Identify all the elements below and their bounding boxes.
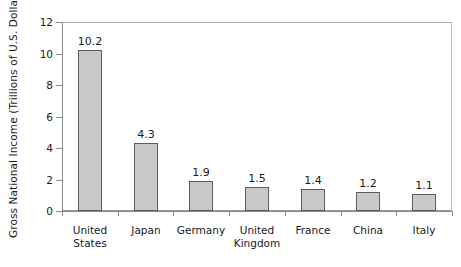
y-axis-tick-label: 4 — [0, 142, 62, 154]
y-axis-tick-mark — [56, 117, 62, 118]
category-label-line: States — [55, 237, 125, 250]
bar-value-label: 1.2 — [338, 177, 398, 190]
bar — [301, 189, 325, 211]
y-axis-tick-mark — [56, 85, 62, 86]
bar — [356, 192, 380, 211]
y-axis-tick-label: 0 — [0, 205, 62, 217]
x-axis-tick-mark — [118, 211, 119, 216]
bar-value-label: 4.3 — [116, 128, 176, 141]
x-axis-line — [62, 211, 453, 212]
category-label: Italy — [389, 224, 459, 237]
y-axis-line — [62, 22, 63, 212]
x-axis-tick-mark — [452, 211, 453, 216]
category-label-line: Kingdom — [222, 237, 292, 250]
y-axis-tick-mark — [56, 148, 62, 149]
y-axis-tick-label: 10 — [0, 48, 62, 60]
bar-value-label: 1.5 — [227, 172, 287, 185]
bar-chart: Gross National Income (Trillions of U.S.… — [0, 0, 461, 267]
bar — [78, 50, 102, 211]
bar-value-label: 1.4 — [283, 174, 343, 187]
bar-value-label: 1.9 — [171, 166, 231, 179]
x-axis-tick-mark — [285, 211, 286, 216]
y-axis-tick-label: 12 — [0, 16, 62, 28]
y-axis-tick-mark — [56, 180, 62, 181]
bar — [245, 187, 269, 211]
bar — [134, 143, 158, 211]
y-axis-tick-label: 8 — [0, 79, 62, 91]
x-axis-tick-mark — [229, 211, 230, 216]
x-axis-tick-mark — [62, 211, 63, 216]
bar — [189, 181, 213, 211]
x-axis-tick-mark — [173, 211, 174, 216]
bar-value-label: 10.2 — [60, 35, 120, 48]
bar-value-label: 1.1 — [394, 179, 454, 192]
y-axis-tick-label: 6 — [0, 111, 62, 123]
x-axis-tick-mark — [396, 211, 397, 216]
x-axis-tick-mark — [341, 211, 342, 216]
bar — [412, 194, 436, 211]
category-label-line: Italy — [389, 224, 459, 237]
y-axis-tick-mark — [56, 22, 62, 23]
y-axis-tick-label: 2 — [0, 174, 62, 186]
y-axis-tick-mark — [56, 54, 62, 55]
